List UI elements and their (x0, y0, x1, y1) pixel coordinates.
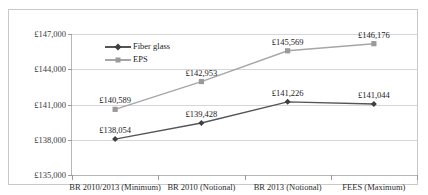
legend-label-fiber-glass: Fiber glass (133, 42, 170, 51)
data-point-marker (112, 136, 118, 142)
data-point-value-label: £139,428 (185, 109, 217, 118)
data-point-marker (285, 99, 291, 105)
chart-container: £135,000£138,000£141,000£144,000£147,000… (0, 0, 428, 195)
x-axis-tick-mark (417, 175, 418, 180)
legend-label-eps: EPS (133, 55, 148, 64)
y-axis-tick-label: £141,000 (34, 100, 66, 109)
figure-frame: £135,000£138,000£141,000£144,000£147,000… (8, 9, 418, 185)
data-point-marker (371, 41, 376, 46)
x-axis-category-label: FEES (Maximum) (342, 183, 405, 192)
data-point-marker (371, 101, 377, 107)
data-point-value-label: £141,044 (358, 90, 390, 99)
x-axis-category-label: BR 2010 (Notional) (167, 183, 235, 192)
x-axis-category-label: BR 2010/2013 (Minimum) (69, 183, 161, 192)
y-axis-tick-label: £138,000 (34, 136, 66, 145)
legend-marker-eps (105, 55, 131, 64)
data-point-value-label: £146,176 (358, 30, 390, 39)
x-axis-tick-mark (331, 175, 332, 180)
x-axis-category-label: BR 2013 (Notional) (254, 183, 322, 192)
data-point-marker (113, 107, 118, 112)
data-point-value-label: £141,226 (272, 88, 304, 97)
data-point-value-label: £142,953 (185, 68, 217, 77)
data-point-marker (198, 120, 204, 126)
x-axis-tick-mark (158, 175, 159, 180)
data-point-value-label: £145,569 (272, 37, 304, 46)
legend-item-eps: EPS (105, 53, 170, 66)
x-axis-tick-mark (72, 175, 73, 180)
data-point-marker (199, 79, 204, 84)
data-point-value-label: £140,589 (99, 96, 131, 105)
data-point-value-label: £138,054 (99, 126, 131, 135)
legend-marker-fiber-glass (105, 42, 131, 51)
chart-legend: Fiber glass EPS (105, 40, 170, 66)
y-axis-tick-label: £147,000 (34, 30, 66, 39)
y-axis-tick-label: £135,000 (34, 171, 66, 180)
legend-item-fiber-glass: Fiber glass (105, 40, 170, 53)
data-point-marker (285, 48, 290, 53)
series-line-fiber-glass (115, 102, 374, 139)
x-axis-tick-mark (245, 175, 246, 180)
y-axis-tick-label: £144,000 (34, 65, 66, 74)
